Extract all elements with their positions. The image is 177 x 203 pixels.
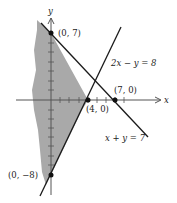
label-2x-minus-y-eq-8: 2x − y = 8 — [110, 58, 157, 68]
point-label-7-0: (7, 0) — [114, 85, 137, 95]
point-0-neg8 — [49, 173, 54, 178]
label-x-plus-y-eq-7: x + y = 7 — [105, 133, 146, 143]
point-7-0 — [113, 98, 118, 103]
point-0-7 — [49, 31, 54, 36]
point-label-0-7: (0, 7) — [58, 28, 81, 38]
y-axis-label: y — [47, 6, 53, 16]
point-label-4-0: (4, 0) — [86, 104, 109, 114]
x-axis-label: x — [164, 95, 169, 105]
graph-canvas: x y (0, 7) (7, 0) (4, 0) — [0, 0, 177, 203]
point-label-0-neg8: (0, −8) — [8, 170, 38, 180]
point-4-0 — [86, 98, 91, 103]
